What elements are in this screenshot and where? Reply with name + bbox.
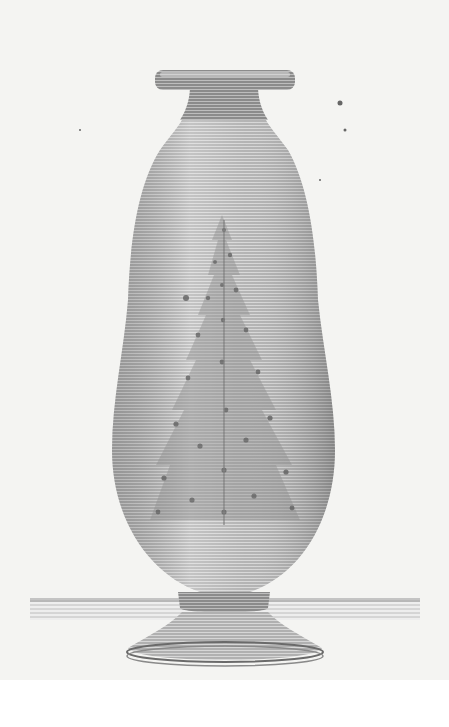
vase-engraving	[0, 0, 449, 727]
vase-foot	[127, 612, 323, 666]
vase-neck	[180, 86, 268, 120]
vase-rim	[155, 70, 295, 90]
vase-stem	[178, 592, 270, 613]
